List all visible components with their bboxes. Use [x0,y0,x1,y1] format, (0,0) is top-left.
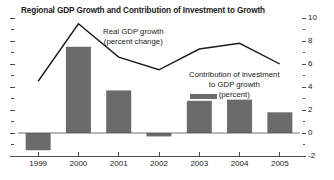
y-tick-left-minor [11,98,14,99]
x-tick [38,152,39,156]
y-tick-left [10,87,15,88]
x-axis-line [10,156,306,157]
y-axis-label-right: -2 [308,151,315,160]
x-axis-label-2000: 2000 [70,159,88,168]
annotation-line: Real GDP growth [103,27,164,37]
y-tick-right-minor [303,121,305,122]
bar-1999 [26,133,51,150]
annotation-line: (percent change) [103,37,164,47]
x-axis-label-2001: 2001 [110,159,128,168]
y-tick-left-minor [11,52,14,53]
y-axis-label-right: 2 [308,105,312,114]
annotation-line: Contribution of investment [189,70,280,80]
x-tick [279,152,280,156]
bar-2002 [147,133,172,136]
y-tick-right [302,87,306,88]
bar-2000 [66,47,91,133]
y-tick-left-minor [11,29,14,30]
y-tick-left [10,110,15,111]
y-tick-left [10,133,15,134]
y-tick-left [10,41,15,42]
annotation-real-gdp-growth: Real GDP growth(percent change) [103,27,164,47]
x-axis-label-1999: 1999 [29,159,47,168]
bar-2005 [267,112,292,133]
y-tick-right-minor [303,144,305,145]
y-axis-label-right: 0 [308,128,312,137]
legend-swatch-investment [190,94,217,99]
y-tick-left [10,18,15,19]
x-tick [199,152,200,156]
y-tick-right [302,64,306,65]
y-axis-label-right: 8 [308,36,312,45]
x-axis-label-2003: 2003 [190,159,208,168]
bar-2004 [227,100,252,133]
y-tick-right-minor [303,52,305,53]
x-axis-label-2004: 2004 [231,159,249,168]
x-tick [118,152,119,156]
x-tick [239,152,240,156]
y-tick-right [302,18,306,19]
y-tick-left-minor [11,75,14,76]
y-axis-label-right: 6 [308,59,312,68]
x-tick [159,152,160,156]
y-axis-label-right: 10 [308,13,317,22]
x-axis-label-2002: 2002 [150,159,168,168]
y-axis-label-right: 4 [308,82,312,91]
x-axis-label-2005: 2005 [271,159,289,168]
chart-title: Regional GDP Growth and Contribution of … [21,6,265,15]
bar-2001 [106,90,131,133]
y-tick-right [302,110,306,111]
y-tick-right-minor [303,75,305,76]
y-tick-left [10,64,15,65]
y-tick-right [302,41,306,42]
y-tick-left-minor [11,121,14,122]
y-tick-right-minor [303,98,305,99]
y-tick-right [302,133,306,134]
bar-2003 [187,101,212,133]
y-tick-right-minor [303,29,305,30]
x-tick [78,152,79,156]
chart-figure: Regional GDP Growth and Contribution of … [0,0,334,180]
annotation-line: to GDP growth [189,80,280,90]
y-tick-left-minor [11,144,14,145]
